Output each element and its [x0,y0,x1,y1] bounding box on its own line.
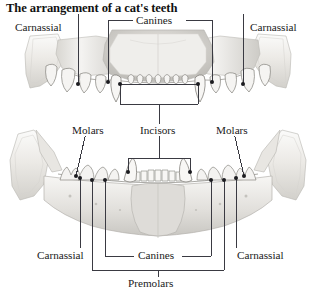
label-incisors: Incisors [138,124,177,136]
label-premolars: Premolars [126,277,175,289]
label-carnassial-upper-left: Carnassial [13,21,64,33]
label-carnassial-lower-right: Carnassial [235,249,286,261]
label-canines-lower: Canines [136,249,176,261]
label-carnassial-upper-right: Carnassial [248,21,299,33]
label-canines-upper: Canines [134,14,174,26]
figure-root: The arrangement of a cat's teeth [0,0,316,297]
label-molars-left: Molars [70,124,106,136]
label-carnassial-lower-left: Carnassial [35,249,86,261]
label-molars-right: Molars [214,124,250,136]
